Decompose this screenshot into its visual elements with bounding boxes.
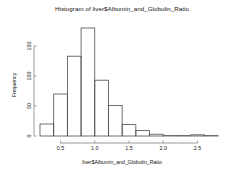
histogram-bar bbox=[81, 28, 95, 136]
y-axis-tick-label: 100 bbox=[26, 72, 32, 81]
y-axis-tick-label: 50 bbox=[26, 103, 32, 109]
x-axis-tick-label: 1.0 bbox=[91, 145, 99, 151]
x-axis-label: liver$Albumin_and_Globulin_Ratio bbox=[0, 159, 244, 165]
histogram-bar bbox=[95, 80, 109, 136]
histogram-bar bbox=[67, 56, 81, 136]
plot-area: 050100150 0.51.01.52.02.5 bbox=[0, 0, 244, 182]
bars-group bbox=[40, 28, 218, 136]
y-axis-tick-label: 150 bbox=[26, 42, 32, 51]
x-axis-tick-label: 2.5 bbox=[194, 145, 202, 151]
x-axis: 0.51.01.52.02.5 bbox=[57, 141, 201, 152]
histogram-bar bbox=[150, 134, 164, 136]
histogram-bar bbox=[54, 94, 68, 136]
x-axis-tick-label: 1.5 bbox=[125, 145, 133, 151]
histogram-bar bbox=[122, 125, 136, 136]
histogram-bar bbox=[108, 105, 122, 136]
x-axis-tick-label: 0.5 bbox=[57, 145, 65, 151]
histogram-figure: Histogram of liver$Albumin_and_Globulin_… bbox=[0, 0, 244, 182]
histogram-bar bbox=[40, 124, 54, 136]
x-axis-tick-label: 2.0 bbox=[159, 145, 167, 151]
histogram-bar bbox=[136, 131, 150, 136]
y-axis: 050100150 bbox=[26, 42, 36, 138]
histogram-bar bbox=[191, 135, 205, 136]
y-axis-tick-label: 0 bbox=[26, 135, 32, 138]
y-axis-label: Frequency bbox=[11, 55, 20, 115]
